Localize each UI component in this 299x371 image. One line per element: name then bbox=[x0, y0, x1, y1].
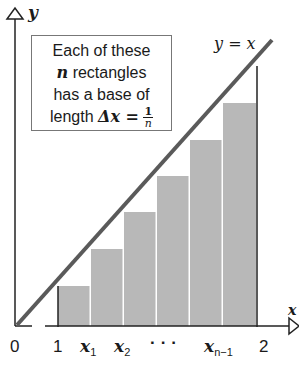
rectangle-5 bbox=[190, 140, 222, 326]
callout-line-1: Each of these bbox=[32, 43, 171, 59]
callout-line-2: n rectangles bbox=[32, 65, 171, 81]
tick-x2: x2 bbox=[114, 338, 130, 358]
tick-0: 0 bbox=[10, 338, 19, 355]
line-label: y = x bbox=[214, 36, 256, 52]
callout-line-4: length Δx = 1n bbox=[32, 106, 171, 129]
fraction-1-over-n: 1n bbox=[143, 106, 153, 129]
tick-2: 2 bbox=[259, 338, 268, 355]
tick-xn-1: xn−1 bbox=[204, 338, 233, 358]
rectangle-4 bbox=[157, 176, 189, 326]
y-axis-arrow-icon bbox=[7, 8, 23, 19]
tick-ellipsis: ··· bbox=[150, 334, 182, 351]
x-axis-arrow-icon bbox=[289, 318, 299, 334]
tick-x1: x1 bbox=[80, 338, 96, 358]
rectangle-3 bbox=[124, 212, 156, 326]
tick-1: 1 bbox=[53, 338, 62, 355]
x-axis-label: x bbox=[288, 303, 296, 317]
rectangles bbox=[58, 103, 256, 326]
delta-x: Δx = bbox=[98, 107, 139, 126]
callout-n-var: n bbox=[57, 63, 69, 82]
callout-box: Each of these n rectangles has a base of… bbox=[31, 35, 172, 131]
rectangle-1 bbox=[58, 286, 90, 326]
y-axis-label: y bbox=[28, 4, 38, 21]
rectangle-6 bbox=[223, 103, 256, 326]
rectangle-2 bbox=[91, 249, 123, 326]
callout-line-3: has a base of bbox=[32, 87, 171, 103]
